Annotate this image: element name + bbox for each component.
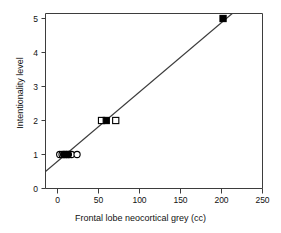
plot-frame — [46, 14, 263, 189]
y-tick-label-0: 0 — [24, 184, 38, 194]
x-tick-label-200: 200 — [209, 195, 235, 205]
x-tick-label-100: 100 — [127, 195, 153, 205]
data-point-filled-square — [103, 117, 109, 123]
regression-line — [46, 14, 233, 172]
y-tick-label-5: 5 — [24, 14, 38, 24]
x-axis-label: Frontal lobe neocortical grey (cc) — [0, 213, 281, 223]
data-point-open-square — [113, 117, 119, 123]
y-tick-label-4: 4 — [24, 48, 38, 58]
data-markers — [57, 15, 227, 157]
y-tick-label-1: 1 — [24, 150, 38, 160]
data-point-filled-circle — [65, 151, 71, 157]
x-tick-label-150: 150 — [168, 195, 194, 205]
x-axis-ticks — [58, 189, 263, 194]
y-axis-ticks — [42, 19, 46, 189]
y-axis-label: Intentionality level — [15, 23, 25, 163]
y-tick-label-2: 2 — [24, 116, 38, 126]
y-tick-label-3: 3 — [24, 82, 38, 92]
figure-container: 0 50 100 150 200 250 0 1 2 3 4 5 Frontal… — [0, 0, 281, 233]
data-point-filled-square — [220, 15, 226, 21]
data-point-open-circle — [74, 151, 80, 157]
x-tick-label-50: 50 — [86, 195, 112, 205]
x-tick-label-250: 250 — [250, 195, 276, 205]
x-tick-label-0: 0 — [45, 195, 71, 205]
